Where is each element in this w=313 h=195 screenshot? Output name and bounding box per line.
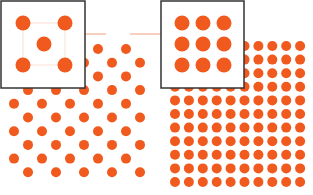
dot xyxy=(51,167,61,177)
dot xyxy=(295,41,305,51)
dot xyxy=(226,95,236,105)
dot xyxy=(267,177,277,187)
dot xyxy=(240,95,250,105)
dot xyxy=(65,99,75,109)
dot xyxy=(175,16,190,31)
dot xyxy=(170,109,180,119)
dot xyxy=(135,140,145,150)
dot xyxy=(198,136,208,146)
dot xyxy=(267,109,277,119)
dot xyxy=(295,163,305,173)
dot xyxy=(253,82,263,92)
dot xyxy=(107,58,117,68)
dot xyxy=(16,58,31,73)
left-inset xyxy=(1,1,85,88)
right-inset xyxy=(161,1,244,88)
dot xyxy=(253,41,263,51)
dot xyxy=(226,123,236,133)
dot xyxy=(281,150,291,160)
dot xyxy=(198,123,208,133)
dot xyxy=(253,123,263,133)
dot xyxy=(9,154,19,164)
dot xyxy=(295,123,305,133)
dot xyxy=(267,68,277,78)
dot xyxy=(240,109,250,119)
dot xyxy=(51,140,61,150)
dot xyxy=(184,136,194,146)
dot xyxy=(240,136,250,146)
dot xyxy=(37,99,47,109)
dot xyxy=(175,58,190,73)
dot xyxy=(65,126,75,136)
dot xyxy=(79,167,89,177)
dot xyxy=(58,58,73,73)
dot xyxy=(226,163,236,173)
dot xyxy=(170,150,180,160)
dot xyxy=(196,37,211,52)
dot xyxy=(295,55,305,65)
dot xyxy=(253,109,263,119)
dot xyxy=(23,167,33,177)
dot xyxy=(107,113,117,123)
dot xyxy=(58,16,73,31)
dot xyxy=(9,126,19,136)
dot xyxy=(240,150,250,160)
dot xyxy=(281,163,291,173)
dot xyxy=(184,163,194,173)
dot xyxy=(65,154,75,164)
dot-pattern-diagram xyxy=(0,0,313,195)
dot xyxy=(107,167,117,177)
dot xyxy=(79,140,89,150)
dot xyxy=(170,136,180,146)
dot xyxy=(295,150,305,160)
dot xyxy=(107,140,117,150)
dot xyxy=(240,123,250,133)
dot xyxy=(267,163,277,173)
dot xyxy=(217,16,232,31)
dot xyxy=(212,109,222,119)
dot xyxy=(281,95,291,105)
dot xyxy=(170,163,180,173)
dot xyxy=(281,177,291,187)
dot xyxy=(16,16,31,31)
dot xyxy=(121,154,131,164)
dot xyxy=(184,150,194,160)
dot xyxy=(212,123,222,133)
dot xyxy=(253,68,263,78)
dot xyxy=(267,55,277,65)
dot xyxy=(295,109,305,119)
dot xyxy=(79,113,89,123)
dot xyxy=(295,136,305,146)
dot xyxy=(198,163,208,173)
dot xyxy=(240,177,250,187)
dot xyxy=(107,85,117,95)
dot xyxy=(23,140,33,150)
dot xyxy=(267,136,277,146)
dot xyxy=(135,58,145,68)
dot xyxy=(212,136,222,146)
dot xyxy=(93,154,103,164)
dot xyxy=(93,99,103,109)
dot xyxy=(295,177,305,187)
dot xyxy=(37,126,47,136)
dot xyxy=(267,150,277,160)
dot xyxy=(217,58,232,73)
dot xyxy=(212,163,222,173)
dot xyxy=(198,150,208,160)
dot xyxy=(121,71,131,81)
dot xyxy=(240,163,250,173)
dot xyxy=(37,154,47,164)
dot xyxy=(51,113,61,123)
dot xyxy=(267,41,277,51)
dot xyxy=(184,95,194,105)
dot xyxy=(281,68,291,78)
dot xyxy=(184,109,194,119)
dot xyxy=(135,85,145,95)
dot xyxy=(121,126,131,136)
dot xyxy=(170,95,180,105)
dot xyxy=(267,123,277,133)
dot xyxy=(281,109,291,119)
dot xyxy=(121,99,131,109)
dot xyxy=(198,109,208,119)
dot xyxy=(226,177,236,187)
